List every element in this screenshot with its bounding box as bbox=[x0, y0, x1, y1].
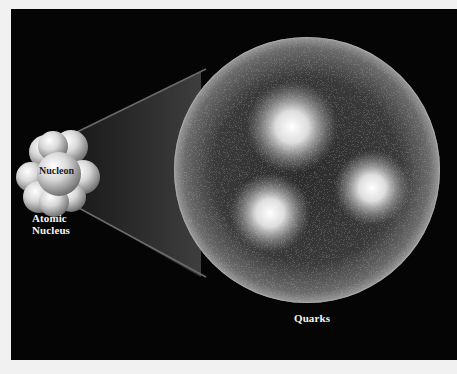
quarks-label: Quarks bbox=[294, 312, 330, 324]
nucleon-label: Nucleon bbox=[39, 165, 74, 176]
atomic-nucleus-label-line2: Nucleus bbox=[32, 224, 70, 236]
nucleon-sphere bbox=[171, 34, 446, 309]
atomic-nucleus-label: Atomic Nucleus bbox=[32, 212, 70, 236]
quark-3 bbox=[230, 173, 310, 253]
quark-2 bbox=[334, 150, 410, 226]
atomic-nucleus-label-line1: Atomic bbox=[32, 212, 70, 224]
quark-1 bbox=[246, 81, 338, 173]
diagram-graphic bbox=[11, 9, 457, 360]
diagram-panel: Nucleon Atomic Nucleus Quarks bbox=[11, 9, 457, 360]
